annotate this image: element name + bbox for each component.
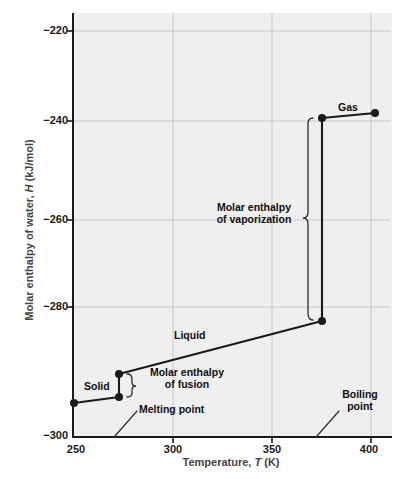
phase-label-solid: Solid xyxy=(84,381,110,393)
xtick-label-wrap-400: 400 xyxy=(339,439,399,453)
annotation-fusion-line2: of fusion xyxy=(138,379,236,391)
annotation-melting-point: Melting point xyxy=(139,404,204,416)
annotation-boiling-point-line1: Boiling xyxy=(337,389,383,401)
annotation-vaporization-line1: Molar enthalpy xyxy=(206,202,302,214)
xtick-label-350: 350 xyxy=(263,443,281,455)
xtick-label-wrap-300: 300 xyxy=(143,439,203,453)
chart-figure: −220 −240 −260 −280 −300 250 300 350 400… xyxy=(0,0,407,479)
y-axis-title-prefix: Molar enthalpy of water, xyxy=(23,192,35,320)
melting-point-leader xyxy=(115,411,137,436)
xtick-label-400: 400 xyxy=(360,443,378,455)
phase-label-gas: Gas xyxy=(338,102,358,114)
x-axis-title-prefix: Temperature, xyxy=(183,456,255,468)
boiling-point-leader xyxy=(317,411,339,436)
y-axis-title-suffix: (kJ/mol) xyxy=(23,139,35,184)
fusion-brace xyxy=(127,374,136,397)
y-axis-title-variable: H xyxy=(23,184,35,192)
annotation-boiling-point-line2: point xyxy=(337,401,383,413)
annotation-fusion: Molar enthalpy of fusion xyxy=(138,367,236,391)
annotation-vaporization: Molar enthalpy of vaporization xyxy=(206,202,302,226)
annotation-boiling-point: Boiling point xyxy=(337,389,383,413)
y-axis-title: Molar enthalpy of water, H (kJ/mol) xyxy=(23,15,35,445)
xtick-label-250: 250 xyxy=(67,443,85,455)
phase-label-liquid: Liquid xyxy=(174,330,206,342)
xtick-label-wrap-250: 250 xyxy=(46,439,106,453)
vaporization-brace xyxy=(303,118,313,320)
annotation-vaporization-line2: of vaporization xyxy=(206,214,302,226)
x-axis-title-suffix: (K) xyxy=(261,456,279,468)
xtick-label-wrap-350: 350 xyxy=(242,439,302,453)
x-axis-title: Temperature, T (K) xyxy=(72,456,390,468)
xtick-label-300: 300 xyxy=(164,443,182,455)
annotation-fusion-line1: Molar enthalpy xyxy=(138,367,236,379)
